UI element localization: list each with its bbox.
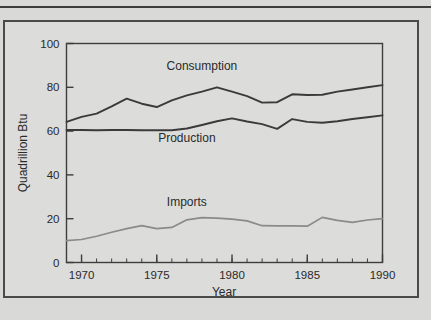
x-axis-title: Year (212, 285, 236, 299)
line-chart: 020406080100 19701975198019851990 Consum… (0, 0, 431, 320)
y-tick-label: 0 (53, 257, 59, 269)
series-label-consumption: Consumption (167, 59, 238, 73)
series-line-production (67, 115, 383, 130)
y-tick-label: 80 (47, 81, 60, 93)
series-line-consumption (67, 85, 383, 122)
y-axis-tick-labels: 020406080100 (40, 38, 59, 269)
y-tick-label: 100 (40, 38, 59, 50)
x-tick-label: 1975 (144, 269, 170, 281)
y-tick-label: 60 (47, 125, 60, 137)
y-axis-ticks (67, 44, 74, 263)
x-tick-label: 1990 (370, 269, 396, 281)
x-tick-label: 1970 (69, 269, 95, 281)
x-tick-label: 1985 (294, 269, 320, 281)
y-tick-label: 40 (47, 169, 60, 181)
plot-area-border (67, 44, 383, 263)
x-tick-label: 1980 (219, 269, 245, 281)
figure-root: 020406080100 19701975198019851990 Consum… (0, 0, 431, 320)
y-axis-title: Quadrillion Btu (16, 114, 30, 193)
data-series-labels: ConsumptionProductionImports (158, 59, 237, 209)
data-series-lines (67, 85, 383, 240)
x-axis-tick-labels: 19701975198019851990 (69, 269, 396, 281)
y-tick-label: 20 (47, 213, 60, 225)
series-line-imports (67, 217, 383, 240)
series-label-production: Production (158, 131, 215, 145)
series-label-imports: Imports (167, 195, 207, 209)
